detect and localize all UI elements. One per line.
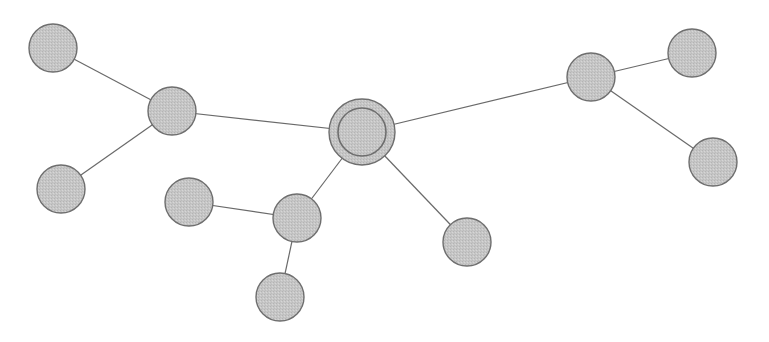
node-circle <box>668 29 716 77</box>
node-circle <box>29 24 77 72</box>
nodes-layer <box>29 24 737 321</box>
node-far-right <box>689 138 737 186</box>
node-circle <box>273 194 321 242</box>
node-center <box>329 99 395 165</box>
node-inner-ring <box>338 108 386 156</box>
node-right-hub <box>567 53 615 101</box>
node-bottom-left <box>37 165 85 213</box>
node-circle <box>37 165 85 213</box>
node-circle <box>256 273 304 321</box>
node-top-left <box>29 24 77 72</box>
node-top-right <box>668 29 716 77</box>
network-diagram <box>0 0 769 342</box>
node-left-hub <box>148 87 196 135</box>
node-mid-hub <box>273 194 321 242</box>
graph-canvas <box>0 0 769 342</box>
node-lower-right <box>443 218 491 266</box>
node-circle <box>148 87 196 135</box>
node-bottom <box>256 273 304 321</box>
node-circle <box>689 138 737 186</box>
node-circle <box>443 218 491 266</box>
node-circle <box>567 53 615 101</box>
node-mid-left <box>165 178 213 226</box>
edge-center-right-hub <box>362 77 591 132</box>
node-circle <box>165 178 213 226</box>
